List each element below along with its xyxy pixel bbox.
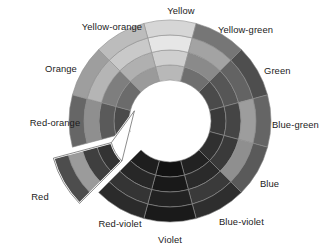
wheel-label-red-orange: Red-orange xyxy=(30,117,81,128)
swatch-violet-ring-3[interactable] xyxy=(148,190,193,207)
color-wheel-figure: YellowYellow-greenGreenBlue-greenBlueBlu… xyxy=(0,0,331,252)
wheel-label-orange: Orange xyxy=(45,63,77,74)
swatch-yellow-ring-1-inner[interactable] xyxy=(156,65,185,81)
swatch-yellow-ring-2[interactable] xyxy=(152,50,189,67)
wheel-label-yellow-green: Yellow-green xyxy=(218,24,273,35)
wheel-label-blue-violet: Blue-violet xyxy=(219,216,264,227)
swatch-blue-green-ring-3[interactable] xyxy=(239,99,256,144)
wheel-label-blue: Blue xyxy=(260,178,279,189)
wheel-label-red-violet: Red-violet xyxy=(98,218,142,229)
color-wheel-svg: YellowYellow-greenGreenBlue-greenBlueBlu… xyxy=(0,0,331,252)
swatch-yellow-ring-3[interactable] xyxy=(148,35,193,52)
wheel-label-violet: Violet xyxy=(158,234,182,245)
swatch-red-orange-ring-2[interactable] xyxy=(99,103,116,140)
swatch-blue-green-ring-4-outer[interactable] xyxy=(253,95,271,147)
swatch-violet-ring-4-outer[interactable] xyxy=(144,204,196,222)
swatch-blue-green-ring-2[interactable] xyxy=(224,103,241,140)
wheel-label-yellow-orange: Yellow-orange xyxy=(82,21,142,32)
swatch-violet-ring-2[interactable] xyxy=(152,175,189,192)
wheel-label-red: Red xyxy=(31,191,49,202)
swatch-blue-green-ring-1-inner[interactable] xyxy=(210,107,226,136)
wheel-label-yellow: Yellow xyxy=(167,5,194,16)
swatch-red-orange-ring-3[interactable] xyxy=(84,99,101,144)
wheel-label-blue-green: Blue-green xyxy=(272,119,319,130)
swatch-yellow-ring-4-outer[interactable] xyxy=(144,20,196,38)
wheel-label-green: Green xyxy=(264,65,291,76)
swatch-violet-ring-1-inner[interactable] xyxy=(156,161,185,177)
